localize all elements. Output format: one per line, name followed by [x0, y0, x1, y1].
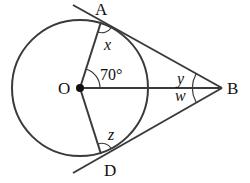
label-b: B [227, 79, 238, 98]
angle-arc-aob [86, 69, 100, 88]
label-o: O [58, 79, 70, 98]
angle-arc-a [98, 28, 111, 33]
label-a: A [95, 0, 108, 19]
angle-label-z: z [107, 126, 115, 143]
center-point-o [76, 84, 84, 92]
angle-label-w: w [175, 87, 186, 104]
angle-label-70: 70° [100, 66, 122, 83]
radius-od [80, 88, 101, 154]
label-d: D [104, 161, 116, 180]
geometry-diagram: A O B D x 70° y w z [0, 0, 250, 183]
angle-label-x: x [103, 36, 111, 53]
angle-arc-d [98, 143, 111, 148]
angle-label-y: y [175, 70, 185, 88]
